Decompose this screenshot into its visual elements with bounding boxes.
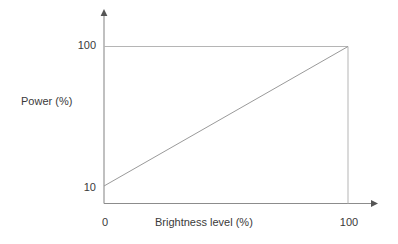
y-axis-tick-label-10: 10 xyxy=(66,181,96,194)
y-axis-title: Power (%) xyxy=(21,95,72,108)
x-axis-arrow-icon xyxy=(371,200,378,207)
y-axis xyxy=(101,9,108,204)
data-line-power xyxy=(104,47,348,187)
y-axis-arrow-icon xyxy=(101,9,108,16)
x-axis-tick-label-0: 0 xyxy=(98,216,112,229)
chart-figure: 100 10 Power (%) 0 100 Brightness level … xyxy=(0,0,398,244)
x-axis xyxy=(104,200,378,207)
chart-canvas xyxy=(0,0,398,244)
x-axis-tick-label-100: 100 xyxy=(334,216,364,229)
y-axis-tick-label-100: 100 xyxy=(66,39,96,52)
x-axis-title: Brightness level (%) xyxy=(155,216,253,229)
